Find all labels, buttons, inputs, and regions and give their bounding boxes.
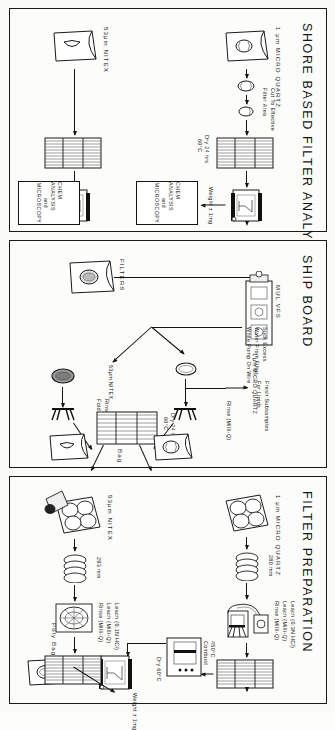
quartz-disc-stack-figure (234, 551, 260, 581)
filters-bag-figure (68, 255, 116, 299)
dry-rack-top-figure (216, 137, 274, 169)
chem-analysis-line3-bottom: MICROSCOPY (35, 183, 42, 223)
label-diameter-nitex: 293 mm (95, 557, 102, 579)
label-diameter-quartz: 280 mm (267, 555, 274, 577)
quartz-disc-figure (174, 361, 198, 377)
label-mul-vfs: MUL VFS (275, 285, 282, 319)
label-prep-weight: Weight ± 1mg (131, 693, 138, 730)
panel-title-ship: SHIP BOARD (300, 255, 314, 348)
dry-rack-bottom-figure (44, 137, 102, 169)
arrow-quartz-to-rinse (185, 388, 186, 406)
chem-analysis-line1-bottom: CHEM ANALYSIS (49, 182, 63, 224)
label-filters: FILTERS (119, 259, 126, 291)
quartz-filter-sheet-figure (224, 491, 270, 535)
arrow-nitex-to-rinse (62, 387, 63, 407)
filter-cut-step2-figure (235, 105, 257, 118)
label-weight-top: Weight ± 1mg (207, 187, 214, 224)
arrow-dry-to-balance-top (246, 171, 247, 187)
arrow-cut1-to-cut2 (246, 95, 247, 104)
arrow-dryrack-quartz-into-furnace (202, 674, 214, 675)
chem-analysis-line3-top: MICROSCOPY (153, 183, 160, 223)
label-bag: Bag (117, 449, 124, 463)
label-leach-nitex-line1: Leach (0.1N HCl) (113, 603, 120, 650)
arrow-cut2-to-dry-top (246, 120, 247, 135)
arrow-leach-quartz-to-dry (246, 643, 247, 657)
label-leach-nitex-line3: Rinse (Milli-Q) (97, 603, 104, 642)
label-cut-to-effective: Cut To Effective (269, 88, 276, 131)
chem-analysis-line1-top: CHEM ANALYSIS (167, 182, 181, 224)
filter-in-bag-quartz-figure (224, 25, 270, 67)
arrow-nitex-sheet-to-stack (74, 539, 75, 551)
label-combust-line1: 450°C (209, 641, 216, 658)
leach-apparatus-nitex-figure (54, 601, 94, 635)
nitex-disc-figure (50, 367, 76, 385)
label-leach-quartz-line2: Leach (Milli-Q) (281, 601, 288, 641)
arrow-quartz-stack-to-leach (246, 583, 247, 599)
label-prep-dry: Dry 60°C (155, 657, 162, 682)
furnace-to-balance-v (128, 643, 166, 644)
label-shore-src-nitex: 53μm NITEX (103, 27, 110, 73)
branch-arrow-to-quartz (151, 327, 184, 355)
filter-cut-step1-figure (234, 79, 258, 93)
arrow-to-chem-analysis-top (202, 205, 226, 206)
bag-quartz-figure (152, 429, 194, 465)
arrow-quartz-sheet-to-stack (246, 537, 247, 549)
arrow-dry-to-bag-top (139, 445, 151, 471)
muffle-furnace-figure (166, 637, 202, 677)
label-leach-quartz-line3: Rinse (Milli-Q) (273, 601, 280, 640)
label-combust-line2: Combust (202, 641, 209, 665)
rinse-fork-bottom-figure (50, 407, 76, 423)
arrow-leach-nitex-to-dry (74, 637, 75, 653)
label-filter-area: Filter Area (261, 88, 268, 116)
panel-filter-preparation: FILTER PREPARATION 1 μm MICRO QUARTZ 280… (9, 476, 327, 704)
chem-analysis-line2-top: and (160, 198, 167, 208)
ship-dry-rack-figure (96, 411, 158, 445)
label-dry-temp-top: 60°C (196, 139, 203, 152)
nitex-filter-sheet-figure (44, 487, 102, 539)
leach-apparatus-quartz-figure (218, 599, 270, 641)
nitex-disc-stack-figure (62, 553, 88, 583)
filter-in-bag-nitex-figure (52, 25, 98, 67)
panel-title-prep: FILTER PREPARATION (300, 491, 314, 653)
fresh-subsample-arrow (226, 388, 248, 389)
fresh-subsample-stem (186, 388, 226, 389)
label-prep-src-quartz: 1 μm MICRO QUARTZ (275, 495, 282, 576)
chem-analysis-box-bottom: CHEM ANALYSIS and MICROSCOPY (18, 181, 80, 225)
arrow-nitex-stack-to-leach (74, 585, 75, 601)
chem-analysis-box-top: CHEM ANALYSIS and MICROSCOPY (136, 181, 198, 225)
prep-dry-rack-quartz-figure (216, 659, 274, 689)
label-fresh-line2: For Lipids (255, 381, 262, 408)
label-leach-nitex-line2: Leach (Milli-Q) (105, 603, 112, 643)
panel-ship-board: SHIP BOARD FILTERS MUL VFS (9, 240, 327, 468)
label-prep-src-nitex: 53μm NITEX (107, 495, 114, 541)
arrow-furnace-to-balance (127, 643, 128, 656)
label-suck-line1: Suck Excess (261, 327, 268, 362)
branch-stem-vertical (152, 327, 242, 328)
panel-shore-based-filter-analysis: SHORE BASED FILTER ANALYSIS 1 μm MICRO Q… (9, 8, 327, 232)
label-shore-src-quartz: 1 μm MICRO QUARTZ (275, 27, 282, 108)
arrow-nitex-to-dry (74, 69, 75, 135)
label-rinse-bottom-line2: Fold (95, 399, 102, 411)
branch-arrow-to-nitex (113, 327, 152, 363)
arrow-quartz-to-cut1 (246, 69, 247, 78)
bag-nitex-figure (48, 429, 90, 465)
chem-analysis-line2-bottom: and (42, 198, 49, 208)
balance-top-figure (228, 189, 264, 223)
label-fresh-line1: Fresh Subsamples (263, 381, 270, 432)
label-ship-nitex: 53μm NITEX (107, 365, 114, 399)
label-rinse-top: Rinse (Milli-Q) (225, 401, 232, 440)
label-leach-quartz-line1: Leach (0.3N HCl) (289, 601, 296, 648)
panel-title-shore: SHORE BASED FILTER ANALYSIS (300, 23, 314, 265)
label-dry-24hrs-top: Dry 24 hrs (203, 135, 210, 163)
